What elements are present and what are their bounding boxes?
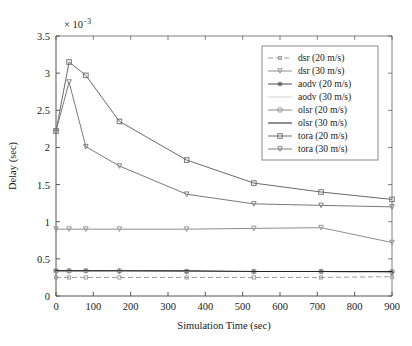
x-tick-label: 0 [53,301,58,312]
series-dsr-30-m-s- [54,225,395,244]
y-tick-label: 1.5 [37,180,50,191]
legend-label: aodv (30 m/s) [298,91,351,103]
series-line [56,228,392,243]
legend-label: dsr (20 m/s) [298,52,344,64]
x-tick-label: 600 [272,301,288,312]
y-tick-label: 2 [45,142,50,153]
legend-label: aodv (20 m/s) [298,78,351,90]
x-tick-label: 800 [347,301,363,312]
delay-vs-simulation-time-chart: 010020030040050060070080090000.511.522.5… [0,0,412,346]
x-tick-label: 300 [160,301,176,312]
legend-label: olsr (20 m/s) [298,104,347,116]
y-tick-label: 0.5 [37,254,50,265]
chart-canvas: 010020030040050060070080090000.511.522.5… [0,0,412,346]
y-axis-title: Delay (sec) [7,141,19,190]
x-tick-label: 100 [85,301,101,312]
x-tick-label: 400 [197,301,213,312]
y-tick-label: 3 [45,68,50,79]
y-axis-multiplier-exponent: −3 [83,17,91,26]
x-tick-label: 200 [123,301,139,312]
legend-label: tora (20 m/s) [298,130,348,142]
y-tick-label: 1 [45,217,50,228]
x-tick-label: 900 [384,301,400,312]
x-tick-label: 700 [309,301,325,312]
series-dsr-20-m-s- [54,275,393,279]
series-line [56,277,392,278]
legend: dsr (20 m/s)dsr (30 m/s)aodv (20 m/s)aod… [262,46,378,160]
marker-asterisk [277,81,282,86]
legend-label: olsr (30 m/s) [298,117,347,129]
x-axis-title: Simulation Time (sec) [177,320,271,332]
y-axis-multiplier: × 10−3 [64,17,91,30]
x-tick-label: 500 [235,301,251,312]
legend-label: dsr (30 m/s) [298,65,344,77]
y-tick-label: 0 [45,291,50,302]
legend-label: tora (30 m/s) [298,143,348,155]
y-tick-label: 3.5 [37,31,50,42]
y-tick-label: 2.5 [37,105,50,116]
